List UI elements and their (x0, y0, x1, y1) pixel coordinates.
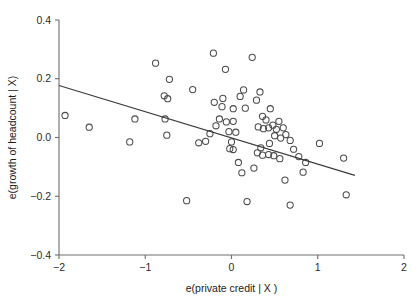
scatter-point (210, 50, 216, 56)
scatter-point (220, 95, 226, 101)
x-tick-label: −2 (53, 261, 65, 273)
scatter-point (216, 116, 222, 122)
scatter-point (259, 152, 265, 158)
scatter-point (86, 124, 92, 130)
scatter-point (272, 133, 278, 139)
y-tick-label: 0.2 (36, 72, 51, 84)
scatter-point (240, 87, 246, 93)
scatter-point (196, 140, 202, 146)
x-tick-label: 0 (229, 261, 235, 273)
scatter-point (300, 169, 306, 175)
scatter-point (226, 129, 232, 135)
scatter-point (287, 202, 293, 208)
scatter-point (283, 131, 289, 137)
scatter-point (343, 192, 349, 198)
scatter-point (267, 106, 273, 112)
scatter-point (316, 140, 322, 146)
regression-scatter-figure: −0.4−0.20.00.20.4−2−1012e(private credit… (0, 0, 416, 301)
scatter-point (235, 159, 241, 165)
scatter-point (251, 165, 257, 171)
data-markers (62, 50, 349, 208)
scatter-point (166, 76, 172, 82)
scatter-point (253, 97, 259, 103)
scatter-point (211, 99, 217, 105)
scatter-point (230, 118, 236, 124)
scatter-point (266, 140, 272, 146)
scatter-point (228, 139, 234, 145)
scatter-point (287, 137, 293, 143)
scatter-point (132, 116, 138, 122)
y-tick-label: −0.4 (30, 249, 51, 261)
scatter-point (249, 54, 255, 60)
y-axis-title: e(growth of headcount | X) (6, 76, 18, 200)
axis-labels: −0.4−0.20.00.20.4−2−1012e(private credit… (6, 14, 407, 294)
scatter-point (277, 156, 283, 162)
plot-canvas: −0.4−0.20.00.20.4−2−1012e(private credit… (0, 0, 416, 301)
scatter-point (190, 87, 196, 93)
fit-line-path (59, 86, 355, 176)
y-tick-label: 0.0 (36, 131, 51, 143)
y-tick-label: −0.2 (30, 190, 51, 202)
scatter-point (273, 126, 279, 132)
scatter-point (244, 198, 250, 204)
scatter-point (259, 113, 265, 119)
scatter-point (237, 93, 243, 99)
x-tick-label: 2 (401, 261, 407, 273)
x-tick-label: 1 (315, 261, 321, 273)
x-axis-title: e(private credit | X ) (186, 282, 277, 294)
scatter-point (219, 104, 225, 110)
scatter-point (282, 177, 288, 183)
scatter-point (222, 66, 228, 72)
scatter-point (153, 60, 159, 66)
y-tick-label: 0.4 (36, 14, 51, 26)
scatter-point (276, 118, 282, 124)
scatter-point (263, 117, 269, 123)
scatter-point (291, 146, 297, 152)
scatter-point (203, 138, 209, 144)
scatter-point (213, 123, 219, 129)
scatter-point (164, 132, 170, 138)
scatter-point (280, 125, 286, 131)
scatter-point (62, 112, 68, 118)
scatter-point (341, 155, 347, 161)
scatter-point (184, 198, 190, 204)
scatter-point (239, 170, 245, 176)
scatter-point (223, 119, 229, 125)
regression-line (59, 86, 355, 176)
scatter-point (127, 139, 133, 145)
scatter-point (230, 106, 236, 112)
scatter-point (233, 129, 239, 135)
scatter-point (257, 89, 263, 95)
scatter-point (242, 105, 248, 111)
x-tick-label: −1 (139, 261, 151, 273)
